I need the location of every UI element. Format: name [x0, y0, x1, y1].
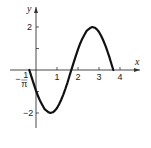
x-special-label-den: π [21, 79, 27, 89]
x-tick-label: 1 [55, 72, 60, 82]
x-tick-label: 4 [118, 72, 123, 82]
tick-labels: xy1234−1π2−2 [15, 3, 140, 118]
y-tick-label: −2 [23, 108, 33, 118]
x-tick-label: 2 [76, 72, 81, 82]
x-tick-label: 3 [97, 72, 102, 82]
y-tick-label: 2 [27, 22, 32, 32]
x-special-label-sign: − [15, 74, 20, 84]
function-plot: xy1234−1π2−2 [0, 0, 151, 148]
y-axis-arrow [34, 7, 38, 13]
x-axis-arrow [134, 68, 140, 72]
x-axis-label: x [134, 56, 140, 67]
y-axis-label: y [26, 3, 32, 14]
